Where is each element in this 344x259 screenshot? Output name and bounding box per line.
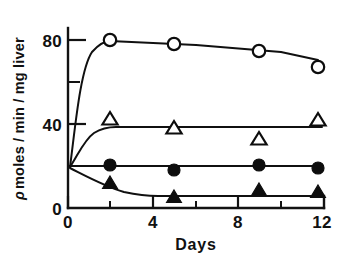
- data-point-filled-circle: [312, 162, 324, 174]
- y-axis-title: ρmoles / min / mg liver: [11, 37, 27, 201]
- data-point-filled-triangle: [311, 185, 326, 198]
- series-open-triangle-markers: [102, 112, 325, 145]
- data-point-filled-circle: [253, 159, 265, 171]
- data-point-open-circle: [253, 45, 265, 57]
- data-point-open-triangle: [251, 132, 266, 145]
- svg-text:ρmoles / min / mg liver: ρmoles / min / mg liver: [11, 37, 27, 201]
- figure-panel: ρmoles / min / mg liver 80 40 0: [0, 0, 344, 259]
- x-tick-label-8: 8: [233, 213, 243, 232]
- data-point-filled-triangle: [103, 176, 118, 189]
- data-point-open-triangle: [102, 112, 117, 125]
- data-point-open-circle: [312, 61, 324, 73]
- y-tick-label-0: 0: [52, 200, 62, 219]
- y-tick-label-80: 80: [42, 32, 62, 51]
- curve-open-circle: [70, 41, 318, 167]
- x-axis-title: Days: [175, 236, 216, 253]
- x-axis-tick-labels: 0 4 8 12: [63, 213, 332, 232]
- data-point-filled-triangle: [252, 183, 267, 196]
- data-point-open-triangle: [310, 113, 325, 126]
- y-tick-label-40: 40: [42, 116, 62, 135]
- data-point-open-circle: [104, 34, 116, 46]
- series-filled-triangle-markers: [103, 176, 326, 203]
- x-tick-label-4: 4: [148, 213, 158, 232]
- data-point-filled-circle: [168, 164, 180, 176]
- y-axis-tick-labels: 80 40 0: [42, 32, 62, 219]
- x-tick-label-0: 0: [63, 213, 73, 232]
- data-point-open-circle: [168, 38, 180, 50]
- y-axis-title-rest: moles / min / mg liver: [11, 37, 27, 189]
- data-point-filled-circle: [104, 159, 116, 171]
- y-axis-title-symbol: ρ: [11, 191, 27, 201]
- y-axis-ticks: [68, 40, 86, 166]
- series-filled-circle-markers: [104, 159, 324, 176]
- x-tick-label-12: 12: [312, 213, 332, 232]
- line-chart: ρmoles / min / mg liver 80 40 0: [0, 0, 344, 259]
